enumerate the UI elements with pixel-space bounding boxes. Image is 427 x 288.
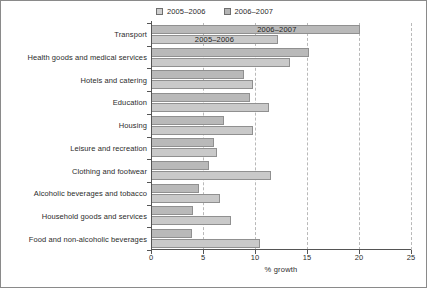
x-tick-label-0: 0	[149, 253, 153, 262]
category-axis-labels: TransportHealth goods and medical servic…	[1, 23, 147, 250]
bar-9-series-0	[151, 229, 192, 238]
category-label-3: Education	[1, 98, 147, 107]
bar-9-series-1	[151, 239, 260, 248]
x-tick-label-15: 15	[303, 253, 311, 262]
x-tick-label-25: 25	[407, 253, 415, 262]
bar-4-series-1	[151, 126, 253, 135]
legend-label-2006-2007: 2006–2007	[235, 7, 273, 16]
x-tick-label-20: 20	[355, 253, 363, 262]
bar-2-series-0	[151, 70, 244, 79]
category-label-9: Food and non-alcoholic beverages	[1, 234, 147, 243]
x-tick-label-5: 5	[201, 253, 205, 262]
x-axis-line	[151, 249, 411, 250]
bar-3-series-1	[151, 103, 269, 112]
legend-entry-2006-2007: 2006–2007	[224, 7, 273, 16]
legend-label-2005-2006: 2005–2006	[167, 7, 205, 16]
x-tick-label-10: 10	[251, 253, 259, 262]
y-tick-7	[147, 182, 151, 183]
gridline-15	[307, 23, 308, 250]
y-axis-line	[151, 21, 152, 250]
y-tick-3	[147, 91, 151, 92]
bar-8-series-0	[151, 206, 193, 215]
x-axis-tick-labels: 0510152025	[151, 253, 411, 265]
category-label-8: Household goods and services	[1, 211, 147, 220]
category-label-7: Alcoholic beverages and tobacco	[1, 189, 147, 198]
y-tick-8	[147, 205, 151, 206]
y-tick-2	[147, 68, 151, 69]
y-tick-9	[147, 227, 151, 228]
y-tick-1	[147, 46, 151, 47]
bar-7-series-0	[151, 184, 199, 193]
bar-5-series-0	[151, 138, 214, 147]
legend-swatch-2006-2007-icon	[224, 8, 231, 15]
bar-6-series-0	[151, 161, 209, 170]
x-axis-title: % growth	[151, 265, 411, 274]
y-tick-4	[147, 114, 151, 115]
bar-5-series-1	[151, 148, 217, 157]
category-label-0: Transport	[1, 30, 147, 39]
category-label-1: Health goods and medical services	[1, 53, 147, 62]
y-tick-5	[147, 137, 151, 138]
chart-legend: 2005–2006 2006–2007	[1, 4, 427, 18]
y-tick-0	[147, 23, 151, 24]
legend-entry-2005-2006: 2005–2006	[156, 7, 205, 16]
plot-area: 2005–20062006–2007	[151, 23, 411, 250]
bar-3-series-0	[151, 93, 250, 102]
bar-1-series-0	[151, 48, 309, 57]
y-tick-6	[147, 159, 151, 160]
annotation-0: 2005–2006	[195, 35, 234, 44]
category-label-4: Housing	[1, 121, 147, 130]
gridline-20	[359, 23, 360, 250]
category-label-6: Clothing and footwear	[1, 166, 147, 175]
gridline-25	[411, 23, 412, 250]
category-label-5: Leisure and recreation	[1, 143, 147, 152]
bar-0-series-0	[151, 25, 360, 34]
bar-6-series-1	[151, 171, 271, 180]
chart-figure: 2005–2006 2006–2007 TransportHealth good…	[0, 0, 427, 288]
bar-1-series-1	[151, 58, 290, 67]
legend-swatch-2005-2006-icon	[156, 8, 163, 15]
annotation-1: 2006–2007	[257, 25, 296, 34]
bar-8-series-1	[151, 216, 231, 225]
category-label-2: Hotels and catering	[1, 75, 147, 84]
bar-4-series-0	[151, 116, 224, 125]
bar-7-series-1	[151, 194, 220, 203]
bar-2-series-1	[151, 80, 253, 89]
